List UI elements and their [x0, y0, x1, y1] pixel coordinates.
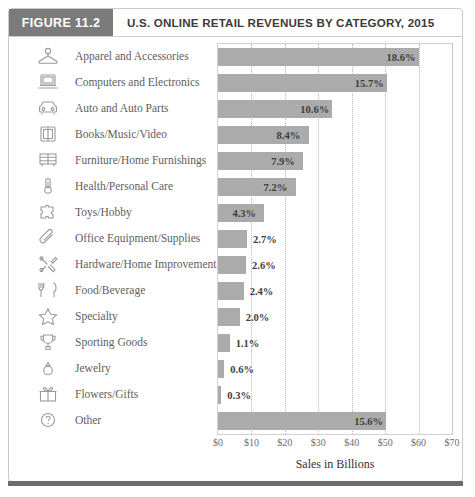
bar-value-label: 18.6%: [387, 48, 416, 66]
car-icon: [29, 95, 67, 121]
category-label: Other: [75, 407, 101, 433]
hanger-icon: [29, 43, 67, 69]
bar-value-label: 2.7%: [253, 230, 277, 248]
bar-value-label: 15.6%: [354, 412, 383, 430]
star-icon: [29, 303, 67, 329]
bar: [218, 334, 230, 352]
bar-value-label: 7.9%: [271, 152, 295, 170]
category-label: Auto and Auto Parts: [75, 95, 169, 121]
bar-row: 7.9%: [218, 148, 452, 174]
category-label: Books/Music/Video: [75, 121, 167, 147]
x-axis-title: Sales in Billions: [217, 457, 453, 472]
bar-row: 10.6%: [218, 96, 452, 122]
bar-row: 15.6%: [218, 408, 452, 434]
bar-row: 0.3%: [218, 382, 452, 408]
bar-value-label: 2.0%: [246, 308, 270, 326]
x-axis-tick-label: $60: [411, 437, 426, 448]
category-label: Furniture/Home Furnishings: [75, 147, 206, 173]
x-axis-tick-label: $70: [445, 437, 460, 448]
x-axis-tick-label: $50: [378, 437, 393, 448]
x-axis-tick-label: $30: [311, 437, 326, 448]
gridline: [452, 44, 453, 434]
trophy-icon: [29, 329, 67, 355]
bar-row: 15.7%: [218, 70, 452, 96]
category-label: Food/Beverage: [75, 277, 145, 303]
bar-row: 2.7%: [218, 226, 452, 252]
puzzle-icon: [29, 199, 67, 225]
figure-number-badge: FIGURE 11.2: [9, 9, 113, 36]
figure-header: FIGURE 11.2 U.S. ONLINE RETAIL REVENUES …: [9, 9, 462, 37]
category-label: Health/Personal Care: [75, 173, 173, 199]
category-label: Apparel and Accessories: [75, 43, 189, 69]
category-label: Computers and Electronics: [75, 69, 200, 95]
bar-value-label: 7.2%: [264, 178, 288, 196]
bottom-rule: [8, 481, 463, 486]
bar: [218, 360, 224, 378]
bar-value-label: 4.3%: [232, 204, 256, 222]
furniture-icon: [29, 147, 67, 173]
utensils-icon: [29, 277, 67, 303]
bar: [218, 230, 247, 248]
bar-row: 0.6%: [218, 356, 452, 382]
bar-row: 2.6%: [218, 252, 452, 278]
question-icon: [29, 407, 67, 433]
x-axis-tick-label: $10: [244, 437, 259, 448]
bar-row: 1.1%: [218, 330, 452, 356]
figure-frame: FIGURE 11.2 U.S. ONLINE RETAIL REVENUES …: [8, 8, 463, 482]
category-label: Hardware/Home Improvement: [75, 251, 216, 277]
bar-value-label: 2.4%: [250, 282, 274, 300]
figure-title: U.S. ONLINE RETAIL REVENUES BY CATEGORY,…: [127, 9, 434, 36]
book-icon: [29, 121, 67, 147]
bar-value-label: 8.4%: [277, 126, 301, 144]
category-label: Sporting Goods: [75, 329, 148, 355]
bar-row: 4.3%: [218, 200, 452, 226]
laptop-icon: [29, 69, 67, 95]
bar-row: 18.6%: [218, 44, 452, 70]
bar-value-label: 0.6%: [230, 360, 254, 378]
x-axis-tick-label: $0: [213, 437, 223, 448]
thermometer-icon: [29, 173, 67, 199]
bar: [218, 256, 246, 274]
bar-row: 2.4%: [218, 278, 452, 304]
category-label: Flowers/Gifts: [75, 381, 138, 407]
tools-icon: [29, 251, 67, 277]
bar-row: 2.0%: [218, 304, 452, 330]
gift-icon: [29, 381, 67, 407]
ring-icon: [29, 355, 67, 381]
bar-series: 18.6%15.7%10.6%8.4%7.9%7.2%4.3%2.7%2.6%2…: [218, 44, 452, 434]
x-axis-tick-label: $20: [277, 437, 292, 448]
bar-value-label: 15.7%: [355, 74, 384, 92]
x-axis: $0$10$20$30$40$50$60$70: [217, 437, 453, 453]
bar-value-label: 0.3%: [227, 386, 251, 404]
bar: [218, 282, 244, 300]
chart-body: Apparel and AccessoriesComputers and Ele…: [9, 37, 462, 482]
category-label: Office Equipment/Supplies: [75, 225, 200, 251]
bar-row: 8.4%: [218, 122, 452, 148]
category-label: Specialty: [75, 303, 118, 329]
figure-number-text: FIGURE 11.2: [22, 16, 101, 30]
x-axis-tick-label: $40: [344, 437, 359, 448]
bar: [218, 308, 240, 326]
bar-value-label: 2.6%: [252, 256, 276, 274]
bar-value-label: 1.1%: [236, 334, 260, 352]
plot-area: 18.6%15.7%10.6%8.4%7.9%7.2%4.3%2.7%2.6%2…: [217, 43, 453, 435]
bar-value-label: 10.6%: [300, 100, 329, 118]
bar: [218, 386, 221, 404]
paperclip-icon: [29, 225, 67, 251]
figure-title-text: U.S. ONLINE RETAIL REVENUES BY CATEGORY,…: [127, 16, 434, 29]
category-label: Toys/Hobby: [75, 199, 132, 225]
category-label: Jewelry: [75, 355, 111, 381]
bar-row: 7.2%: [218, 174, 452, 200]
